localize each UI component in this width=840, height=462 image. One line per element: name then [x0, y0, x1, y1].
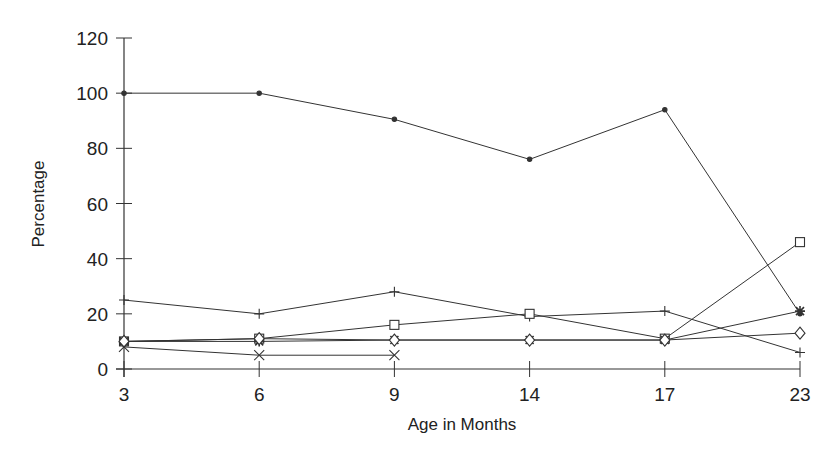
- square-marker-icon: [390, 320, 399, 329]
- plus-marker-icon: [119, 295, 129, 305]
- plus-marker-icon: [254, 309, 264, 319]
- x-tick-label: 6: [254, 384, 265, 405]
- dot-marker-icon: [122, 91, 126, 95]
- plus-marker-icon: [660, 306, 670, 316]
- square-marker-icon: [796, 238, 805, 247]
- series-plus: [119, 287, 805, 358]
- series-line: [124, 292, 800, 353]
- dot-marker-icon: [392, 117, 396, 121]
- series-line: [124, 242, 800, 341]
- series-line: [124, 333, 800, 341]
- series-square: [120, 238, 805, 346]
- y-tick-label: 100: [76, 83, 108, 104]
- dot-marker-icon: [527, 157, 531, 161]
- star-marker-icon: [795, 306, 805, 316]
- x-axis-title: Age in Months: [408, 415, 517, 434]
- y-tick-label: 60: [87, 194, 108, 215]
- plus-marker-icon: [389, 287, 399, 297]
- y-tick-label: 120: [76, 28, 108, 49]
- y-tick-label: 20: [87, 304, 108, 325]
- series-line: [124, 347, 394, 355]
- x-tick-label: 9: [389, 384, 400, 405]
- y-axis-title: Percentage: [29, 161, 48, 248]
- series-dot: [122, 91, 802, 316]
- y-tick-label: 40: [87, 249, 108, 270]
- series-diamond: [119, 327, 805, 347]
- dot-marker-icon: [663, 108, 667, 112]
- series-group: [119, 91, 805, 360]
- square-marker-icon: [525, 309, 534, 318]
- x-tick-label: 14: [519, 384, 541, 405]
- series-line: [124, 93, 800, 314]
- plus-marker-icon: [795, 347, 805, 357]
- line-chart: 020406080100120369141723 Age in Months P…: [0, 0, 840, 462]
- x-tick-label: 23: [789, 384, 810, 405]
- y-tick-label: 0: [97, 359, 108, 380]
- x-tick-label: 3: [119, 384, 130, 405]
- axes: 020406080100120369141723: [76, 28, 810, 405]
- x-tick-label: 17: [654, 384, 675, 405]
- dot-marker-icon: [257, 91, 261, 95]
- y-tick-label: 80: [87, 138, 108, 159]
- series-line: [124, 311, 800, 341]
- diamond-marker-icon: [795, 327, 805, 339]
